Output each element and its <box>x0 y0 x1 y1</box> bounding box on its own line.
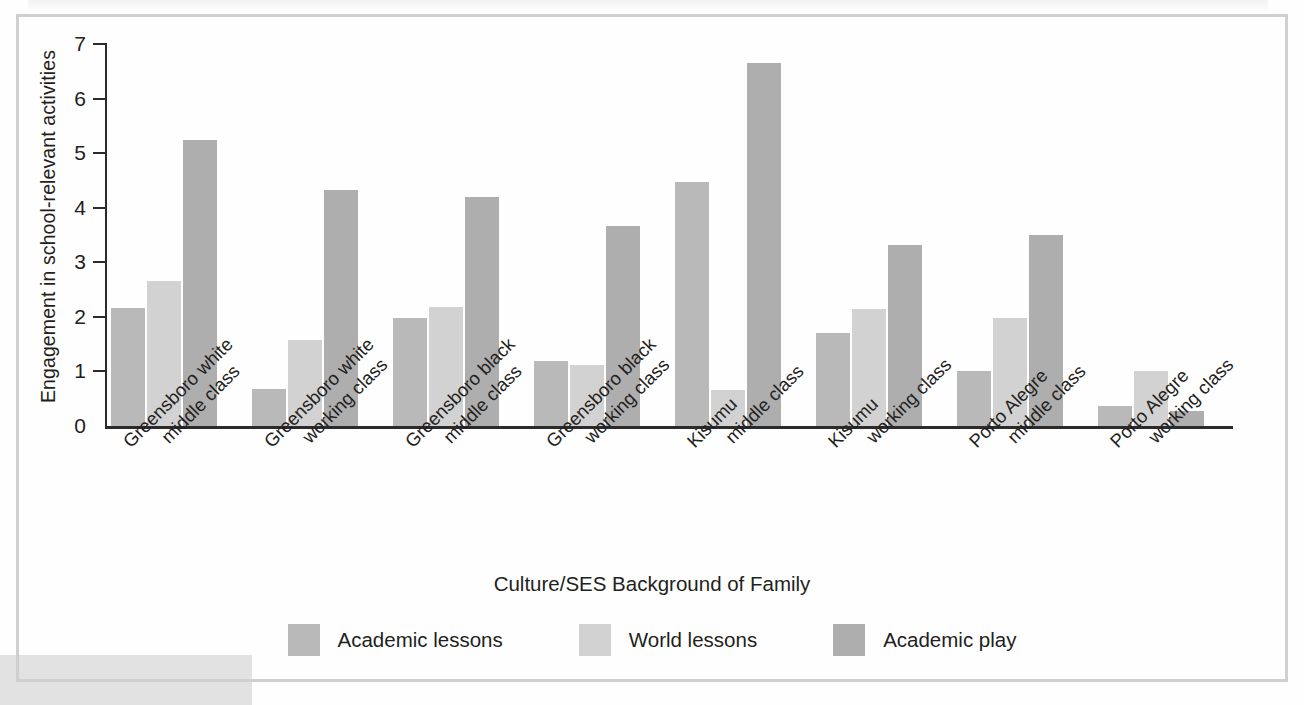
legend-swatch <box>579 624 611 656</box>
bar <box>111 308 145 426</box>
y-axis-tick-label: 0 <box>62 414 86 438</box>
y-axis-tick-6 <box>93 98 107 100</box>
scanned-page: Engagement in school-relevant activities… <box>0 0 1304 705</box>
y-axis-tick-label: 5 <box>62 141 86 165</box>
y-axis-tick-label: 7 <box>62 32 86 56</box>
y-axis-tick-label: 4 <box>62 196 86 220</box>
y-axis-tick-label: 3 <box>62 250 86 274</box>
y-axis-tick-2 <box>93 316 107 318</box>
y-axis-tick-label: 2 <box>62 305 86 329</box>
y-axis-tick-1 <box>93 370 107 372</box>
bar <box>816 333 850 426</box>
bar-chart: Engagement in school-relevant activities… <box>0 0 1304 705</box>
x-axis-title: Culture/SES Background of Family <box>0 572 1304 596</box>
legend-item: World lessons <box>579 624 757 656</box>
bar <box>675 182 709 426</box>
chart-legend: Academic lessonsWorld lessonsAcademic pl… <box>0 624 1304 656</box>
legend-swatch <box>833 624 865 656</box>
y-axis-tick-5 <box>93 152 107 154</box>
legend-item: Academic play <box>833 624 1016 656</box>
legend-item: Academic lessons <box>288 624 503 656</box>
y-axis-tick-7 <box>93 43 107 45</box>
y-axis-title: Engagement in school-relevant activities <box>37 27 60 427</box>
bar <box>393 318 427 426</box>
y-axis-tick-label: 6 <box>62 87 86 111</box>
legend-label: World lessons <box>629 628 757 652</box>
legend-label: Academic lessons <box>338 628 503 652</box>
legend-label: Academic play <box>883 628 1016 652</box>
legend-swatch <box>288 624 320 656</box>
y-axis-tick-3 <box>93 261 107 263</box>
y-axis-tick-label: 1 <box>62 359 86 383</box>
y-axis-tick-4 <box>93 207 107 209</box>
